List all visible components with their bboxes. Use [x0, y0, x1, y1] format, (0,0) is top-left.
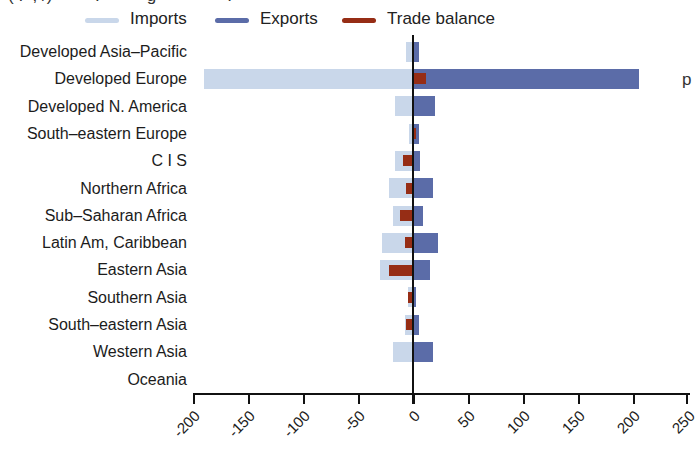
- x-tick: [633, 393, 635, 404]
- category-label: Western Asia: [0, 338, 187, 365]
- x-tick-label: 0: [378, 407, 423, 449]
- bar-exports: [413, 342, 433, 362]
- bar-exports: [413, 96, 435, 116]
- x-tick: [578, 393, 580, 404]
- x-tick-label: -150: [213, 407, 258, 449]
- bar-trade-balance: [413, 73, 426, 84]
- category-label: Northern Africa: [0, 175, 187, 202]
- trade-bar-chart-figure: ( . , /) . g . ImportsExportsTrade balan…: [0, 0, 698, 449]
- x-tick: [193, 393, 195, 404]
- x-tick-label: 100: [488, 407, 533, 449]
- category-label: Oceania: [0, 366, 187, 393]
- category-label: Eastern Asia: [0, 256, 187, 283]
- x-tick-label: 50: [433, 407, 478, 449]
- x-tick-label: -200: [158, 407, 203, 449]
- category-label: Sub–Saharan Africa: [0, 202, 187, 229]
- cropped-right-text: p: [682, 70, 691, 90]
- bar-imports: [204, 69, 413, 89]
- x-tick-label: -50: [323, 407, 368, 449]
- x-tick-label: 200: [598, 407, 643, 449]
- category-label: Developed N. America: [0, 93, 187, 120]
- plot-area: Developed Asia–PacificDeveloped EuropeDe…: [0, 0, 698, 449]
- bar-imports: [393, 342, 413, 362]
- x-tick: [686, 393, 688, 404]
- category-label: Latin Am, Caribbean: [0, 229, 187, 256]
- x-tick: [358, 393, 360, 404]
- bar-exports: [413, 260, 430, 280]
- category-label: Southern Asia: [0, 284, 187, 311]
- x-axis-line: [193, 393, 690, 395]
- bar-imports: [395, 96, 413, 116]
- x-tick-label: -100: [268, 407, 313, 449]
- x-tick-label: 250: [653, 407, 698, 449]
- bar-exports: [413, 178, 433, 198]
- bar-trade-balance: [389, 265, 413, 276]
- x-tick: [468, 393, 470, 404]
- category-label: Developed Europe: [0, 65, 187, 92]
- x-tick: [248, 393, 250, 404]
- zero-axis-line: [412, 35, 414, 404]
- bar-trade-balance: [400, 210, 413, 221]
- x-tick: [523, 393, 525, 404]
- x-tick-label: 150: [543, 407, 588, 449]
- bar-exports: [413, 69, 639, 89]
- bar-exports: [413, 206, 423, 226]
- category-label: South–eastern Europe: [0, 120, 187, 147]
- category-label: Developed Asia–Pacific: [0, 38, 187, 65]
- x-tick: [303, 393, 305, 404]
- category-label: South–eastern Asia: [0, 311, 187, 338]
- bar-exports: [413, 233, 438, 253]
- category-label: C I S: [0, 147, 187, 174]
